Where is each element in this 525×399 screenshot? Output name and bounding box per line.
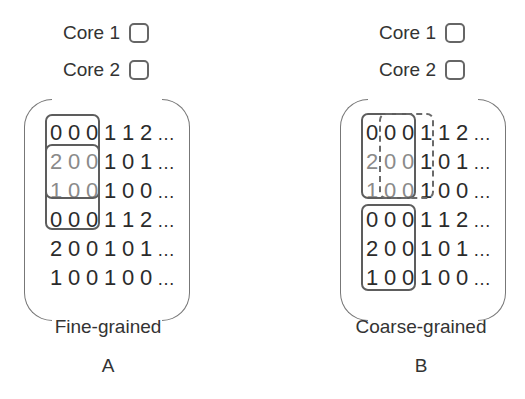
row-ellipsis: …: [473, 207, 491, 236]
panel-letter-b: B: [401, 355, 441, 377]
core-lower-block-box: [361, 204, 416, 291]
matrix-cell: 1: [435, 118, 453, 147]
legend-label-core-1: Core 1: [379, 22, 436, 44]
matrix-cell: 1: [417, 234, 435, 263]
matrix-cell: 1: [417, 205, 435, 234]
matrix-cell: 0: [435, 176, 453, 205]
matrix-cell: 2: [453, 205, 471, 234]
matrix-cell: 1: [453, 234, 471, 263]
legend-label-core-2: Core 2: [379, 59, 436, 81]
row-ellipsis: …: [473, 120, 491, 149]
matrix-cell: 2: [453, 118, 471, 147]
matrix-cell: 0: [453, 176, 471, 205]
matrix-cell: 0: [453, 263, 471, 292]
legend-core-2: Core 2: [379, 58, 465, 82]
matrix-cell: 1: [435, 205, 453, 234]
matrix-cell: 0: [435, 147, 453, 176]
matrix-cell: 1: [453, 147, 471, 176]
legend-core-1: Core 1: [379, 21, 465, 45]
core-1-swatch-icon: [445, 23, 465, 43]
caption-coarse-grained: Coarse-grained: [311, 316, 525, 338]
matrix-cell: 1: [417, 263, 435, 292]
row-ellipsis: …: [473, 236, 491, 265]
row-ellipsis: …: [473, 149, 491, 178]
matrix-cell: 0: [435, 234, 453, 263]
core-2-swatch-icon: [445, 60, 465, 80]
panel-b-coarse-grained: Core 1 Core 2 000112… 200101… 100100… 00…: [0, 0, 525, 399]
core-2-shifted-block-box: [379, 113, 434, 199]
row-ellipsis: …: [473, 265, 491, 294]
row-ellipsis: …: [473, 178, 491, 207]
matrix-cell: 0: [435, 263, 453, 292]
